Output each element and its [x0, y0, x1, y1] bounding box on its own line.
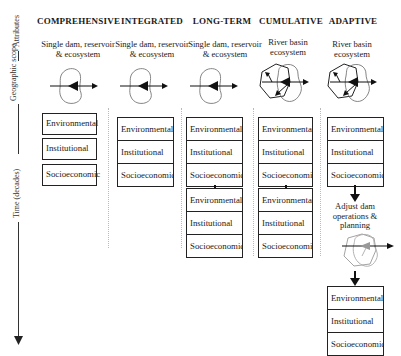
attribute-cell-institutional: Institutional [187, 141, 242, 164]
column-divider [253, 108, 254, 256]
cumulative-stage-1: Environmental Institutional Socioeconomi… [258, 117, 313, 187]
attribute-cell-environmental: Environmental [187, 118, 242, 141]
attribute-cell-institutional: Institutional [328, 310, 383, 333]
attribute-cell-socioeconomic: Socioeconomic [187, 164, 242, 186]
attribute-cell-environmental: Environmental [328, 287, 383, 310]
integrated-stage-1: Environmental Institutional Socioeconomi… [117, 117, 174, 187]
time-axis-line [18, 222, 19, 340]
down-arrow-icon [350, 271, 360, 285]
column-divider [108, 108, 109, 248]
attribute-cell-environmental: Environmental [328, 118, 383, 141]
cumulative-stage-2: Environmental Institutional Socioeconomi… [258, 188, 313, 258]
axis-separator-2 [18, 104, 19, 154]
scope-text-integrated: Single dam, reservoir& ecosystem [110, 40, 194, 59]
scope-text-long-term: Single dam, reservoir& ecosystem [183, 40, 267, 59]
river-basin-multi-arrow-icon [326, 60, 378, 106]
scope-text-cumulative: River basinecosystem [258, 38, 318, 57]
river-basin-multi-arrow-icon [258, 60, 310, 106]
down-arrow-icon [350, 185, 360, 201]
axis-label-time: Time (decades) [13, 169, 21, 218]
axis-label-geographic-scope: Geographic scope [9, 43, 18, 101]
column-title-integrated: INTEGRATED [117, 16, 187, 26]
attribute-cell-environmental: Environmental [259, 189, 312, 212]
single-reservoir-arrow-icon [48, 66, 98, 108]
time-axis-arrowhead-icon [14, 336, 23, 346]
column-title-long-term: LONG-TERM [187, 16, 257, 26]
adjust-operations-note: Adjust dam operations & planning [322, 202, 388, 231]
scope-text-adaptive: River basinecosystem [322, 40, 382, 59]
attribute-cell-socioeconomic: Socioeconomic [259, 235, 312, 257]
attribute-cell-socioeconomic: Socioeconomic [328, 164, 383, 186]
scope-text-comprehensive: Single dam, reservoir& ecosystem [36, 40, 120, 59]
attribute-cell-institutional: Institutional [328, 141, 383, 164]
column-title-adaptive: ADAPTIVE [324, 16, 382, 26]
axis-separator-1 [18, 51, 19, 61]
attribute-cell-socioeconomic: Socioeconomic [328, 333, 383, 355]
attribute-cell-institutional: Institutional [187, 212, 242, 235]
adjusted-river-basin-icon [336, 232, 396, 270]
attribute-box-institutional: Institutional [42, 138, 97, 160]
long-term-stage-2: Environmental Institutional Socioeconomi… [186, 188, 243, 258]
attribute-cell-environmental: Environmental [259, 118, 312, 141]
attribute-cell-socioeconomic: Socioeconomic [118, 164, 173, 186]
column-title-comprehensive: COMPREHENSIVE [37, 16, 117, 26]
attribute-cell-environmental: Environmental [187, 189, 242, 212]
long-term-stage-1: Environmental Institutional Socioeconomi… [186, 117, 243, 187]
attribute-cell-environmental: Environmental [118, 118, 173, 141]
attribute-cell-institutional: Institutional [118, 141, 173, 164]
attribute-box-socioeconomic: Socioeconomic [42, 164, 97, 186]
adaptive-stage-1: Environmental Institutional Socioeconomi… [327, 117, 384, 187]
attribute-cell-institutional: Institutional [259, 141, 312, 164]
adaptive-stage-2: Environmental Institutional Socioeconomi… [327, 286, 384, 356]
single-reservoir-arrow-icon [188, 66, 238, 108]
attribute-cell-socioeconomic: Socioeconomic [259, 164, 312, 186]
column-divider [181, 108, 182, 248]
column-divider [320, 108, 321, 256]
attribute-box-environmental: Environmental [42, 113, 97, 135]
single-reservoir-arrow-icon [118, 66, 168, 108]
column-title-cumulative: CUMULATIVE [256, 16, 326, 26]
attribute-cell-institutional: Institutional [259, 212, 312, 235]
attribute-cell-socioeconomic: Socioeconomic [187, 235, 242, 257]
